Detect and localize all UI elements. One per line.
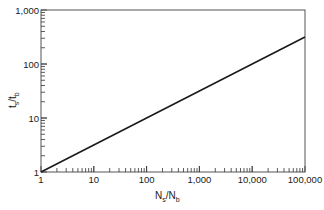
- x-tick-label: 100: [139, 174, 155, 185]
- plot-frame: [41, 10, 305, 172]
- y-tick-label: 10: [28, 113, 39, 124]
- y-tick-label: 100: [23, 59, 39, 70]
- y-axis-ticks: [41, 10, 47, 172]
- x-tick-label: 10,000: [238, 174, 267, 185]
- data-series: [41, 37, 305, 172]
- x-tick-label: 100,000: [288, 174, 322, 185]
- x-tick-label: 10: [89, 174, 100, 185]
- x-tick-label: 1: [38, 174, 43, 185]
- series-line: [41, 37, 305, 172]
- x-axis-label: Ns/Nb: [155, 190, 180, 203]
- x-axis-tick-labels: 1101001,00010,000100,000: [38, 174, 322, 185]
- log-log-chart: 1101001,000 1101001,00010,000100,000 Ns/…: [0, 0, 324, 210]
- x-axis-ticks: [41, 166, 305, 172]
- y-axis-tick-labels: 1101001,000: [15, 5, 39, 178]
- y-axis-label: ts/tb: [7, 92, 20, 108]
- y-tick-label: 1,000: [15, 5, 39, 16]
- x-tick-label: 1,000: [188, 174, 212, 185]
